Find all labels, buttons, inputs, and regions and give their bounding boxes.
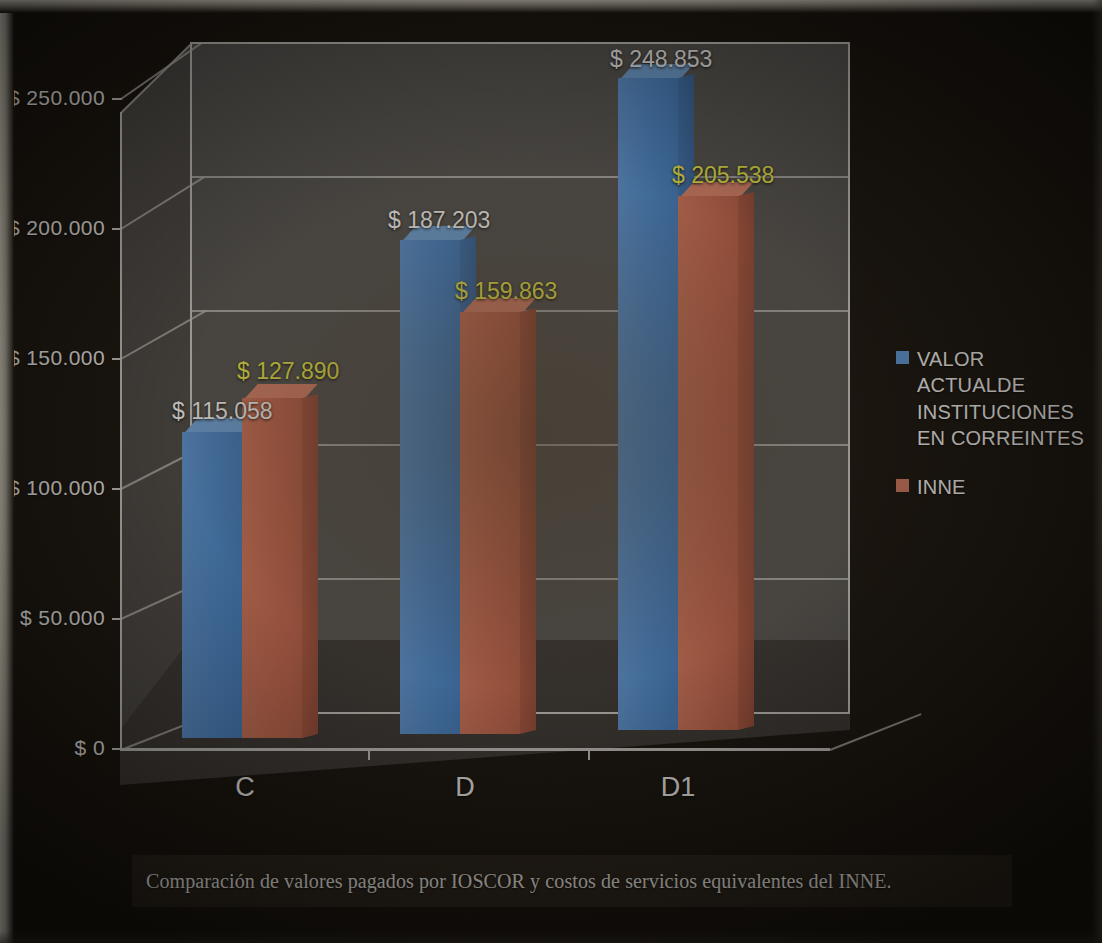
y-tick-50000 (112, 618, 122, 620)
x-axis-label-D1: D1 (633, 772, 723, 803)
y-tick-100000 (112, 488, 122, 490)
bar-front-face (400, 240, 460, 734)
x-axis-divider-2 (588, 748, 590, 760)
x-axis-label-C: C (200, 772, 290, 803)
y-tick-150000 (112, 358, 122, 360)
y-tick-250000 (112, 98, 122, 100)
bar-blue-C (182, 432, 242, 738)
bar-red-C (242, 398, 302, 738)
page-edge-bottom (0, 931, 1102, 943)
y-axis-label-150000: $ 150.000 (0, 346, 105, 370)
legend-item-inne[interactable]: INNE (896, 474, 1096, 500)
chart-caption-band: Comparación de valores pagados por IOSCO… (132, 855, 1012, 907)
x-axis-divider-1 (368, 748, 370, 760)
bar-front-face (678, 196, 738, 730)
y-axis-label-200000: $ 200.000 (0, 216, 105, 240)
bar-red-D1 (678, 196, 738, 730)
bar-front-face (460, 312, 520, 734)
bar-front-face (242, 398, 302, 738)
chart-legend: VALOR ACTUALDE INSTITUCIONES EN CORREINT… (896, 346, 1096, 522)
bar-blue-D1 (618, 78, 678, 730)
data-label-red-D: $ 159.863 (455, 278, 557, 305)
data-label-blue-D1: $ 248.853 (610, 46, 712, 73)
bar-front-face (618, 78, 678, 730)
page-edge-top (0, 0, 1102, 13)
y-tick-0 (112, 748, 122, 750)
data-label-blue-D: $ 187.203 (388, 207, 490, 234)
y-axis-line (120, 112, 122, 750)
bar-front-face (182, 432, 242, 738)
legend-swatch-red-icon (896, 479, 909, 492)
x-axis-label-D: D (420, 772, 510, 803)
bar-side-face (302, 394, 318, 738)
y-axis-label-250000: $ 250.000 (0, 86, 105, 110)
backwall-top-edge (190, 42, 850, 44)
data-label-blue-C: $ 115.058 (172, 398, 273, 425)
y-axis-label-0: $ 0 (0, 736, 105, 760)
y-axis-label-50000: $ 50.000 (0, 606, 105, 630)
backwall-right-edge (848, 42, 850, 714)
data-label-red-D1: $ 205.538 (672, 162, 774, 189)
data-label-red-C: $ 127.890 (237, 358, 339, 385)
bar-blue-D (400, 240, 460, 734)
page-edge-right (1092, 0, 1102, 943)
legend-label-valor-actual: VALOR ACTUALDE INSTITUCIONES EN CORREINT… (917, 346, 1096, 452)
x-axis-line (120, 748, 830, 751)
chart-screenshot: $ 250.000 $ 200.000 $ 150.000 $ 100.000 … (0, 0, 1102, 943)
y-axis-label-100000: $ 100.000 (0, 476, 105, 500)
bar-side-face (738, 192, 754, 730)
y-tick-200000 (112, 228, 122, 230)
chart-caption-text: Comparación de valores pagados por IOSCO… (132, 870, 892, 893)
legend-item-valor-actual[interactable]: VALOR ACTUALDE INSTITUCIONES EN CORREINT… (896, 346, 1096, 452)
legend-label-inne: INNE (917, 474, 966, 500)
bar-red-D (460, 312, 520, 734)
bar-side-face (520, 308, 536, 734)
legend-swatch-blue-icon (896, 351, 909, 364)
page-edge-left (0, 0, 14, 943)
